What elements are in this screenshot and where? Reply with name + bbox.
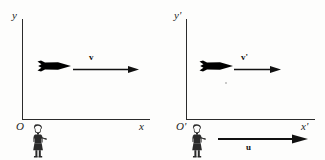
scan-speck	[225, 82, 227, 84]
x-prime-axis-label: x'	[301, 121, 308, 132]
y-axis-label: y	[12, 10, 17, 21]
panel-frame-s: y x O v	[0, 0, 162, 160]
y-prime-axis	[186, 19, 187, 119]
panel-frame-s-prime: y' x' O' v'	[163, 0, 325, 160]
x-axis	[22, 119, 150, 120]
observer-person-icon	[189, 124, 206, 158]
x-prime-axis	[186, 119, 315, 120]
physics-figure: y x O v	[0, 0, 325, 160]
y-axis	[22, 19, 23, 119]
frame-velocity-arrow-icon	[218, 134, 308, 143]
relative-velocity-vector-label: v'	[241, 53, 248, 62]
rocket-icon	[36, 60, 72, 71]
velocity-vector-label: v	[89, 53, 94, 62]
velocity-arrow-icon	[73, 65, 139, 74]
relative-velocity-arrow-icon	[234, 65, 281, 74]
rocket-icon	[198, 60, 234, 71]
x-axis-label: x	[139, 121, 144, 132]
origin-prime-label: O'	[176, 121, 186, 132]
origin-label: O	[16, 121, 24, 132]
observer-person-icon	[30, 124, 47, 158]
y-prime-axis-label: y'	[174, 10, 181, 21]
frame-velocity-vector-label: u	[246, 143, 251, 152]
